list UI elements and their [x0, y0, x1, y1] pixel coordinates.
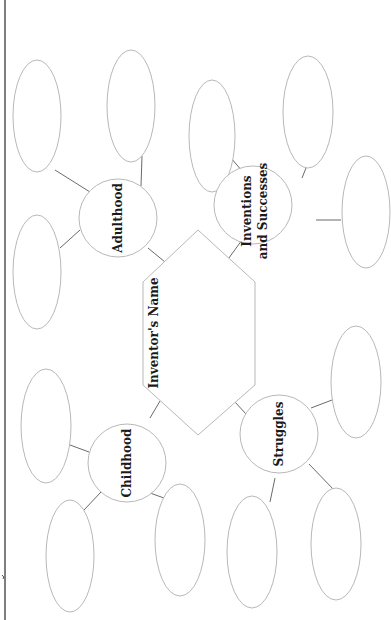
inventor-graphic-organizer: Inventor's Name Adulthood Inventions and…	[0, 0, 391, 620]
inventions-cluster: Inventions and Successes	[189, 56, 390, 268]
struggles-bubble-1[interactable]	[331, 326, 381, 438]
adulthood-bubble-3[interactable]	[13, 215, 61, 329]
inventions-label-line1: Inventions	[240, 175, 254, 247]
center-label: Inventor's Name	[147, 277, 161, 389]
page-mark	[2, 575, 4, 579]
adulthood-bubble-1[interactable]	[13, 60, 61, 172]
adulthood-label: Adulthood	[111, 183, 125, 254]
childhood-label: Childhood	[120, 428, 134, 498]
struggles-bubble-2[interactable]	[227, 496, 277, 608]
inventions-bubble-3[interactable]	[342, 156, 390, 268]
childhood-bubble-1[interactable]	[21, 369, 71, 483]
adulthood-bubble-2[interactable]	[107, 50, 155, 162]
struggles-label: Struggles	[272, 401, 286, 466]
childhood-bubble-2[interactable]	[46, 500, 94, 612]
inventions-bubble-2[interactable]	[283, 56, 333, 168]
childhood-bubble-3[interactable]	[155, 484, 205, 596]
struggles-bubble-3[interactable]	[311, 488, 361, 600]
adulthood-cluster: Adulthood	[13, 50, 157, 329]
inventions-label-line2: and Successes	[256, 162, 270, 259]
